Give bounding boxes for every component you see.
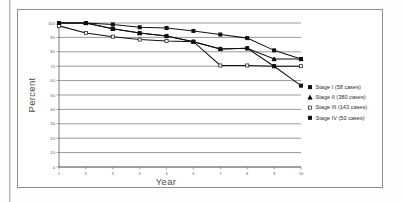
data-point-marker	[246, 37, 249, 40]
x-tick-label: 4	[138, 171, 141, 176]
x-tick-label: 6	[192, 171, 195, 176]
y-tick-label: 50	[50, 93, 55, 98]
gridlines	[59, 23, 301, 167]
x-tick-label: 8	[246, 171, 249, 176]
y-tick-label: 70	[50, 64, 55, 69]
legend-item-label: Stage III (143 cases)	[316, 104, 368, 110]
series-stage-iv-50-cases	[58, 22, 303, 88]
legend-item[interactable]: Stage II (380 cases)	[308, 94, 366, 100]
data-point-marker	[138, 32, 141, 35]
data-point-marker	[84, 22, 87, 25]
chart-frame: 0102030405060708090100 12345678910 Year …	[17, 9, 383, 188]
data-point-marker	[300, 84, 303, 87]
data-point-marker	[309, 86, 312, 89]
y-tick-label: 10	[50, 150, 55, 155]
data-point-marker	[192, 29, 195, 32]
x-tick-label: 2	[85, 171, 88, 176]
y-tick-label: 80	[50, 49, 55, 54]
data-point-marker	[308, 106, 311, 109]
x-tick-label: 9	[273, 171, 276, 176]
y-tick-label: 20	[50, 136, 55, 141]
data-point-marker	[272, 57, 276, 61]
y-axis-title: Percent	[26, 78, 37, 113]
legend-item-label: Stage I (58 cases)	[316, 84, 362, 90]
data-point-marker	[165, 34, 168, 37]
data-point-marker	[308, 95, 312, 99]
page-margin-rule-shadow	[10, 0, 11, 202]
x-tick-label: 1	[58, 171, 61, 176]
y-tick-label: 100	[48, 21, 56, 26]
series-layer	[57, 21, 303, 87]
data-point-marker	[165, 27, 168, 30]
legend-item[interactable]: Stage III (143 cases)	[308, 104, 367, 110]
data-point-marker	[273, 65, 276, 68]
x-tick-label: 7	[219, 171, 222, 176]
data-point-marker	[138, 38, 141, 41]
y-axis-tick-labels: 0102030405060708090100	[48, 21, 56, 170]
data-point-marker	[246, 47, 249, 50]
x-tick-label: 10	[299, 171, 304, 176]
legend-item-label: Stage II (380 cases)	[316, 94, 366, 100]
legend-item-label: Stage IV (50 cases)	[316, 115, 365, 121]
data-point-marker	[246, 64, 249, 67]
y-tick-label: 90	[50, 35, 55, 40]
data-point-marker	[111, 35, 114, 38]
data-point-marker	[273, 49, 276, 52]
chart-legend: Stage I (58 cases)Stage II (380 cases)St…	[308, 84, 367, 121]
legend-item[interactable]: Stage I (58 cases)	[309, 84, 362, 90]
data-point-marker	[299, 65, 302, 68]
legend-item[interactable]: Stage IV (50 cases)	[309, 115, 365, 121]
x-tick-label: 3	[112, 171, 115, 176]
data-point-marker	[111, 27, 114, 30]
data-point-marker	[309, 116, 312, 119]
data-point-marker	[219, 47, 222, 50]
y-tick-label: 40	[50, 107, 55, 112]
data-point-marker	[192, 40, 195, 43]
x-axis-tick-labels: 12345678910	[58, 171, 304, 176]
data-point-marker	[84, 32, 87, 35]
x-axis-title: Year	[156, 176, 176, 187]
line-chart: 0102030405060708090100 12345678910 Year …	[18, 10, 384, 189]
chart-svg: 0102030405060708090100 12345678910 Year …	[18, 10, 384, 189]
data-point-marker	[165, 39, 168, 42]
data-point-marker	[138, 26, 141, 29]
scanned-page: 0102030405060708090100 12345678910 Year …	[0, 0, 402, 202]
data-point-marker	[111, 23, 114, 26]
y-tick-label: 0	[53, 165, 56, 170]
data-point-marker	[219, 33, 222, 36]
data-point-marker	[219, 64, 222, 67]
y-tick-label: 60	[50, 78, 55, 83]
series-line	[59, 23, 301, 86]
y-tick-label: 30	[50, 121, 55, 126]
data-point-marker	[58, 22, 61, 25]
